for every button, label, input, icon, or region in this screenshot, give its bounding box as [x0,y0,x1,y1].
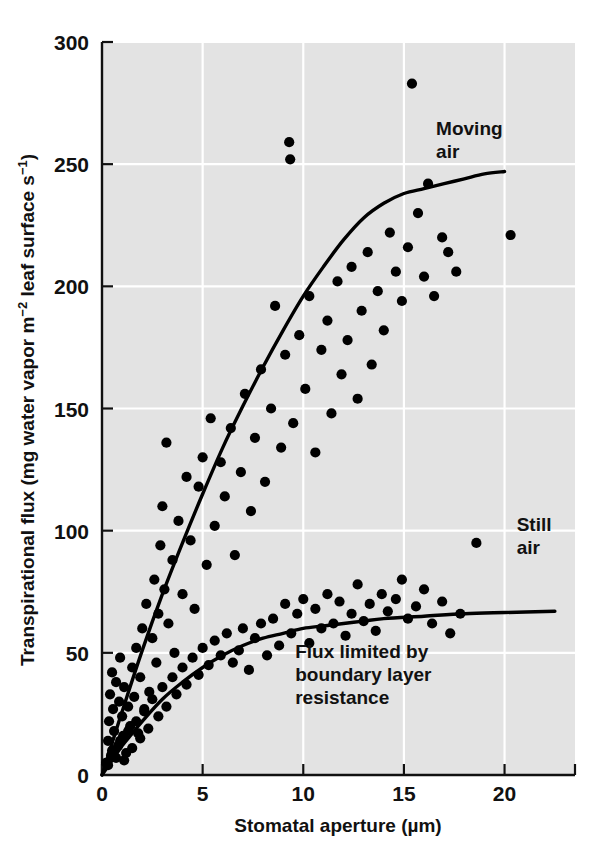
data-point [143,723,153,733]
x-tick-label: 5 [197,782,209,805]
data-point [268,614,278,624]
data-point [246,506,256,516]
data-point [127,743,137,753]
annotation-line: boundary layer [295,664,432,685]
data-point [300,384,310,394]
y-tick-label: 150 [54,398,89,421]
data-point [274,640,284,650]
data-point [310,604,320,614]
annotation-line: Still [517,514,552,535]
data-point [194,482,204,492]
y-tick-label: 250 [54,153,89,176]
data-point [332,276,342,286]
data-point [353,579,363,589]
data-point [407,78,417,88]
annotation-line: air [517,537,541,558]
data-point [210,521,220,531]
data-point [236,467,246,477]
data-point [285,154,295,164]
data-point [371,626,381,636]
data-point [153,711,163,721]
data-point [250,433,260,443]
data-point [187,653,197,663]
data-point [276,442,286,452]
data-point [403,242,413,252]
data-point [105,689,115,699]
data-point [342,335,352,345]
data-point [397,296,407,306]
data-point [147,694,157,704]
data-point [334,596,344,606]
y-tick-label: 0 [77,764,89,787]
y-tick-label: 200 [54,275,89,298]
data-point [322,589,332,599]
data-point [210,636,220,646]
data-point [167,672,177,682]
data-point [266,403,276,413]
data-point [141,599,151,609]
data-point [137,623,147,633]
data-point [228,658,238,668]
data-point [198,452,208,462]
annotation-line: air [436,141,460,162]
data-point [336,369,346,379]
data-point [107,667,117,677]
annotation-line: resistance [295,687,389,708]
data-point [129,692,139,702]
data-point [262,650,272,660]
scatter-chart: 05101520 501001502002503000 MovingairSti… [0,0,598,855]
data-point [206,413,216,423]
data-point [353,394,363,404]
data-point [471,538,481,548]
data-point [131,643,141,653]
data-point [238,623,248,633]
data-point [149,574,159,584]
data-point [177,662,187,672]
data-point [280,350,290,360]
data-point [437,232,447,242]
data-point [157,682,167,692]
data-point [411,601,421,611]
data-point [365,599,375,609]
data-point [379,325,389,335]
data-point [346,609,356,619]
data-point [119,755,129,765]
data-point [427,618,437,628]
y-tick-label: 100 [54,520,89,543]
data-point [346,262,356,272]
figure-container: 05101520 501001502002503000 MovingairSti… [0,0,598,855]
y-axis-title-middle: leaf surface s [17,175,38,302]
data-point [292,609,302,619]
y-tick-label: 300 [54,31,89,54]
data-point [161,701,171,711]
data-point [310,447,320,457]
y-tick-label: 50 [66,642,89,665]
data-point [505,230,515,240]
data-point [181,472,191,482]
y-axis-title: Transpirational flux (mg water vapor m−2… [15,154,38,666]
data-point [244,665,254,675]
data-point [104,716,114,726]
data-point [419,271,429,281]
annotation-line: Flux limited by [295,641,428,662]
data-point [367,359,377,369]
data-point [280,599,290,609]
data-point [391,267,401,277]
data-point [185,535,195,545]
data-point [222,628,232,638]
data-point [363,247,373,257]
data-point [445,628,455,638]
x-tick-label: 10 [292,782,315,805]
data-point [288,418,298,428]
data-point [163,618,173,628]
y-axis-title-prefix: Transpirational flux (mg water vapor m [17,317,38,666]
data-point [397,574,407,584]
data-point [135,733,145,743]
data-point [284,137,294,147]
data-point [443,247,453,257]
data-point [316,345,326,355]
data-point [155,540,165,550]
data-point [298,594,308,604]
data-point [151,658,161,668]
data-point [326,408,336,418]
